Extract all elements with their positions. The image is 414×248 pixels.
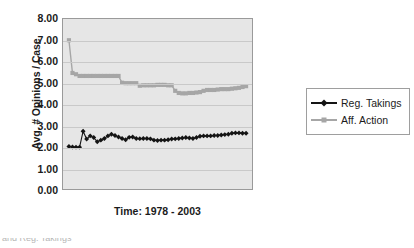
diamond-marker-icon (311, 97, 337, 108)
series-reg-takings (66, 129, 248, 150)
x-axis-title: Time: 1978 - 2003 (62, 205, 253, 217)
gridline (63, 105, 252, 106)
chart-legend: Reg. Takings Aff. Action (306, 88, 410, 135)
y-tick-label: 2.00 (22, 142, 58, 153)
y-tick-label: 5.00 (22, 77, 58, 88)
gridline (63, 127, 252, 128)
y-tick-label: 1.00 (22, 163, 58, 174)
footer-cutoff-text: and Reg. Takings (2, 238, 71, 243)
gridline (63, 84, 252, 85)
y-tick-label: 8.00 (22, 13, 58, 24)
legend-item-reg-takings[interactable]: Reg. Takings (311, 94, 405, 111)
footer-cutoff-strip: and Reg. Takings (0, 238, 414, 248)
y-tick-label: 6.00 (22, 56, 58, 67)
gridline (63, 148, 252, 149)
legend-item-aff-action[interactable]: Aff. Action (311, 111, 405, 128)
gridline (63, 170, 252, 171)
gridline (63, 41, 252, 42)
legend-label-aff-action: Aff. Action (341, 114, 388, 126)
y-axis-tick-labels: 8.007.006.005.004.003.002.001.000.00 (22, 18, 58, 190)
y-tick-label: 3.00 (22, 120, 58, 131)
series-aff-action (67, 38, 248, 95)
y-tick-label: 7.00 (22, 34, 58, 45)
chart-figure: Avg. # Opinions / Case 8.007.006.005.004… (0, 0, 414, 248)
legend-label-reg-takings: Reg. Takings (341, 97, 402, 109)
y-tick-label: 0.00 (22, 185, 58, 196)
plot-area (62, 18, 253, 190)
gridline (63, 62, 252, 63)
y-tick-label: 4.00 (22, 99, 58, 110)
plot-series-canvas (63, 19, 252, 189)
square-marker-icon (311, 114, 337, 125)
